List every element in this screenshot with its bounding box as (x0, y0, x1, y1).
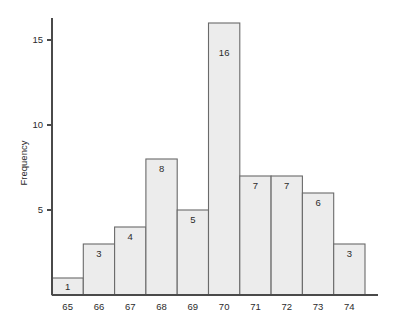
bar-value-label: 1 (65, 281, 70, 292)
histogram-bar (209, 23, 240, 295)
bar-value-label: 6 (315, 197, 320, 208)
histogram-bar (240, 176, 271, 295)
y-tick-label: 15 (32, 34, 43, 45)
histogram-chart: 51015 65666768697071727374 13485167763 F… (0, 0, 403, 331)
x-tick-label: 71 (250, 301, 261, 312)
x-tick-label: 74 (344, 301, 355, 312)
bar-value-label: 4 (128, 231, 133, 242)
histogram-plot-area: 51015 65666768697071727374 13485167763 F… (0, 0, 403, 331)
bar-value-label: 3 (96, 248, 101, 259)
bar-value-label: 5 (190, 214, 195, 225)
y-tick-label: 10 (32, 119, 43, 130)
histogram-bar (302, 193, 333, 295)
bar-value-label: 7 (253, 180, 258, 191)
x-axis-ticks: 65666768697071727374 (62, 301, 354, 312)
bar-value-label: 3 (347, 248, 352, 259)
x-tick-label: 65 (62, 301, 73, 312)
histogram-bar (146, 159, 177, 295)
x-tick-label: 66 (94, 301, 105, 312)
x-tick-label: 72 (281, 301, 292, 312)
bar-value-label: 16 (219, 47, 230, 58)
histogram-bar (271, 176, 302, 295)
bar-value-label: 8 (159, 163, 164, 174)
y-axis-title: Frequency (18, 140, 29, 185)
x-tick-label: 73 (313, 301, 324, 312)
y-tick-label: 5 (38, 204, 43, 215)
bar-value-label: 7 (284, 180, 289, 191)
x-tick-label: 69 (188, 301, 199, 312)
x-tick-label: 68 (156, 301, 167, 312)
y-axis-ticks: 51015 (32, 34, 52, 215)
x-tick-label: 70 (219, 301, 230, 312)
x-tick-label: 67 (125, 301, 136, 312)
